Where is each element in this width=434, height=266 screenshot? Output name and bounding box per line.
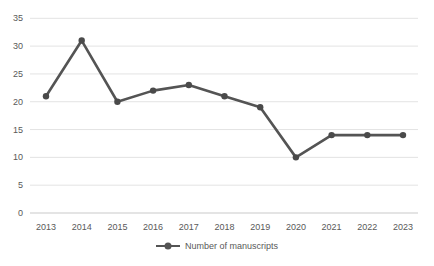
gridlines (30, 18, 418, 213)
y-tick-label-15: 15 (13, 125, 23, 135)
data-point-2023 (400, 132, 406, 138)
x-tick-label-2014: 2014 (72, 222, 92, 232)
data-point-2019 (257, 104, 263, 110)
x-tick-label-2019: 2019 (250, 222, 270, 232)
y-axis-labels: 05101520253035 (13, 13, 23, 218)
y-tick-label-30: 30 (13, 41, 23, 51)
x-tick-label-2022: 2022 (357, 222, 377, 232)
x-tick-label-2018: 2018 (214, 222, 234, 232)
legend-label: Number of manuscripts (185, 242, 278, 251)
x-tick-label-2023: 2023 (393, 222, 413, 232)
chart-container: 05101520253035 2013201420152016201720182… (0, 0, 434, 266)
y-tick-label-20: 20 (13, 97, 23, 107)
data-point-2016 (150, 87, 156, 93)
y-tick-label-25: 25 (13, 69, 23, 79)
data-point-2015 (114, 99, 120, 105)
x-tick-label-2015: 2015 (107, 222, 127, 232)
data-point-2018 (221, 93, 227, 99)
series-group (43, 37, 406, 160)
data-point-2021 (328, 132, 334, 138)
legend-line-marker-icon (156, 245, 180, 248)
data-point-2014 (79, 37, 85, 43)
legend-dot-icon (164, 243, 171, 250)
x-tick-label-2016: 2016 (143, 222, 163, 232)
x-axis-labels: 2013201420152016201720182019202020212022… (36, 222, 413, 232)
line-chart: 05101520253035 2013201420152016201720182… (0, 0, 434, 238)
x-tick-label-2021: 2021 (322, 222, 342, 232)
x-tick-label-2020: 2020 (286, 222, 306, 232)
data-point-2022 (364, 132, 370, 138)
x-tick-label-2013: 2013 (36, 222, 56, 232)
legend: Number of manuscripts (0, 239, 434, 253)
data-point-2017 (186, 82, 192, 88)
y-tick-label-5: 5 (18, 180, 23, 190)
x-tick-label-2017: 2017 (179, 222, 199, 232)
y-tick-label-35: 35 (13, 13, 23, 23)
data-point-2013 (43, 93, 49, 99)
y-tick-label-10: 10 (13, 152, 23, 162)
data-point-2020 (293, 154, 299, 160)
y-tick-label-0: 0 (18, 208, 23, 218)
